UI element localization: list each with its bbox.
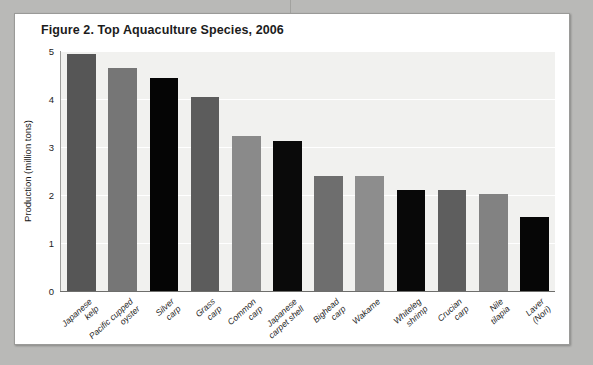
y-tick-label: 1 bbox=[49, 238, 54, 249]
x-axis-line bbox=[60, 291, 555, 292]
y-tick-label: 3 bbox=[49, 142, 54, 153]
chart-plot: Production (million tons) 012345 Japanes… bbox=[61, 51, 555, 328]
y-tick-label: 4 bbox=[49, 94, 54, 105]
bar-slot bbox=[191, 51, 220, 291]
bar-slot bbox=[232, 51, 261, 291]
bar-slot bbox=[397, 51, 426, 291]
x-axis-ticks: JapanesekelpPacific cuppedoysterSilverca… bbox=[61, 295, 555, 365]
y-axis-title: Production (million tons) bbox=[22, 120, 33, 222]
bar-slot bbox=[273, 51, 302, 291]
figure-panel: Figure 2. Top Aquaculture Species, 2006 … bbox=[14, 13, 570, 345]
bar[interactable] bbox=[397, 190, 426, 291]
y-tick-label: 0 bbox=[49, 286, 54, 297]
bar-slot bbox=[314, 51, 343, 291]
bar[interactable] bbox=[314, 176, 343, 291]
bar-slot bbox=[355, 51, 384, 291]
bar[interactable] bbox=[479, 194, 508, 291]
page-title: Figure 2. Top Aquaculture Species, 2006 bbox=[41, 23, 284, 37]
y-tick-label: 2 bbox=[49, 190, 54, 201]
bar[interactable] bbox=[191, 97, 220, 291]
bar-slot bbox=[150, 51, 179, 291]
bar[interactable] bbox=[67, 54, 96, 291]
bar[interactable] bbox=[355, 176, 384, 291]
scan-artifact bbox=[290, 0, 291, 13]
bar[interactable] bbox=[108, 68, 137, 291]
bar-slot bbox=[520, 51, 549, 291]
bar-slot bbox=[479, 51, 508, 291]
bar[interactable] bbox=[273, 141, 302, 291]
bar-slot bbox=[108, 51, 137, 291]
bar[interactable] bbox=[438, 190, 467, 291]
bar[interactable] bbox=[232, 136, 261, 291]
bar-series bbox=[61, 51, 555, 291]
bar-slot bbox=[438, 51, 467, 291]
bar[interactable] bbox=[520, 217, 549, 291]
bar[interactable] bbox=[150, 78, 179, 291]
y-tick-label: 5 bbox=[49, 46, 54, 57]
bar-slot bbox=[67, 51, 96, 291]
